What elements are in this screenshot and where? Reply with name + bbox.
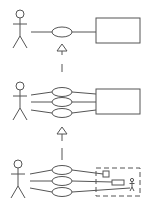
component-square-icon	[103, 171, 109, 177]
use-case-ellipse	[52, 188, 72, 197]
level-3-group	[11, 160, 140, 198]
actor-icon	[11, 160, 25, 198]
use-case-ellipse	[52, 27, 72, 37]
level-2-group	[13, 82, 140, 120]
generalization-arrow	[57, 127, 67, 160]
system-box	[96, 89, 140, 114]
use-case-ellipse	[52, 166, 72, 175]
use-case-diagram	[0, 0, 150, 214]
triangle-arrowhead-icon	[57, 127, 67, 134]
level-1-group	[13, 10, 140, 48]
actor-icon	[13, 82, 27, 120]
use-case-ellipse	[52, 177, 72, 186]
triangle-arrowhead-icon	[57, 44, 67, 51]
use-case-ellipse	[52, 98, 72, 107]
use-case-ellipse	[52, 88, 72, 97]
use-case-ellipse	[52, 109, 72, 118]
generalization-arrow	[57, 44, 67, 72]
small-actor-icon	[130, 178, 135, 191]
actor-icon	[13, 10, 27, 48]
component-rect-icon	[112, 180, 124, 185]
system-box	[96, 18, 140, 43]
